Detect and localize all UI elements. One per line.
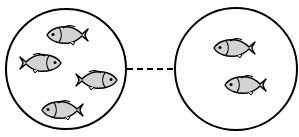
fish-groups-diagram: [0, 0, 299, 137]
right-group: [175, 8, 297, 130]
right-circle: [175, 8, 297, 130]
left-group: [6, 9, 126, 129]
